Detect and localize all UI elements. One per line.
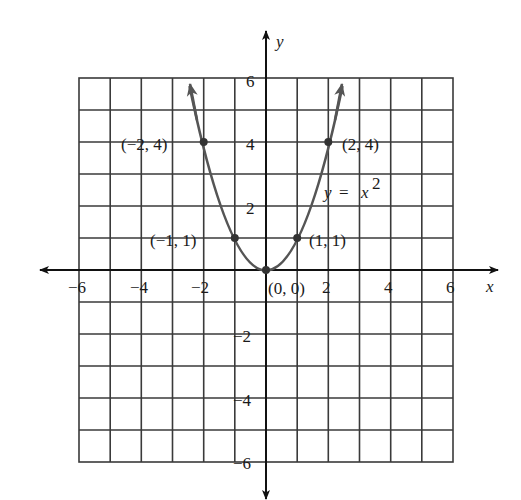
y-tick-label: 4 bbox=[246, 135, 255, 154]
x-tick-label: −4 bbox=[130, 278, 149, 297]
axes bbox=[40, 31, 498, 499]
y-tick-label: −6 bbox=[233, 454, 251, 473]
point-label-1-1: (1, 1) bbox=[309, 231, 346, 250]
x-tick-label: 4 bbox=[384, 278, 393, 297]
x-tick-label: 6 bbox=[446, 278, 455, 297]
point-label-2-4: (2, 4) bbox=[342, 135, 379, 154]
y-tick-label: 6 bbox=[246, 72, 255, 91]
equation-label: y = x 2 bbox=[322, 174, 381, 202]
equation-equals: = bbox=[339, 183, 349, 202]
parabola-chart: −6 −4 −2 2 4 6 6 4 2 −2 −4 −6 y x (−2, 4… bbox=[0, 0, 521, 500]
point-label-m1-1: (−1, 1) bbox=[150, 231, 196, 250]
y-tick-label: −2 bbox=[233, 327, 251, 346]
equation-x: x bbox=[360, 183, 369, 202]
x-tick-labels: −6 −4 −2 2 4 6 bbox=[68, 278, 455, 297]
curve-arrow-right bbox=[335, 84, 342, 120]
y-axis-label: y bbox=[274, 32, 284, 51]
point-1-1 bbox=[293, 234, 301, 242]
equation-exponent: 2 bbox=[372, 174, 381, 193]
x-axis-label: x bbox=[485, 277, 494, 296]
curve-arrow-left bbox=[190, 84, 197, 120]
point-2-4 bbox=[324, 138, 332, 146]
x-tick-label: −6 bbox=[68, 278, 86, 297]
point-m2-4 bbox=[200, 138, 208, 146]
point-m1-1 bbox=[231, 234, 239, 242]
equation-y: y bbox=[322, 183, 332, 202]
y-tick-labels: 6 4 2 −2 −4 −6 bbox=[233, 72, 255, 473]
point-label-0-0: (0, 0) bbox=[268, 279, 305, 298]
point-0-0 bbox=[262, 266, 270, 274]
y-tick-label: 2 bbox=[246, 199, 255, 218]
x-tick-label: −2 bbox=[191, 278, 209, 297]
x-tick-label: 2 bbox=[322, 278, 331, 297]
y-tick-label: −4 bbox=[233, 391, 252, 410]
point-label-m2-4: (−2, 4) bbox=[121, 135, 167, 154]
